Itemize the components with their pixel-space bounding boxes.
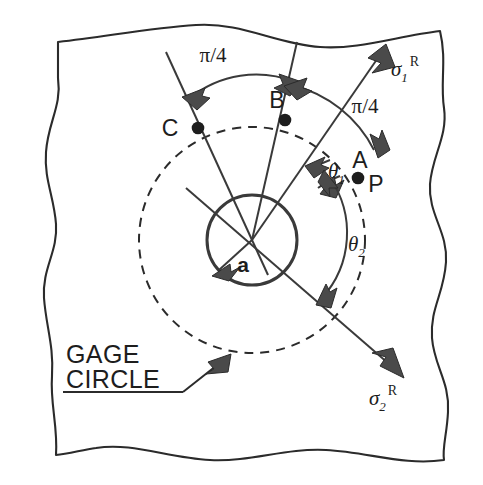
theta1-symbol: θ — [328, 159, 338, 183]
gage-caption-line2: CIRCLE — [66, 365, 160, 393]
label-point-p: P — [368, 171, 383, 197]
theta1-subscript: 1 — [338, 172, 345, 187]
gage-caption-line1: GAGE — [66, 340, 140, 368]
label-point-c: C — [162, 115, 179, 141]
gage-circle-figure: π/4 π/4 C B A P a θ1 θ2 σ1R σ2R GAGE CIR… — [0, 0, 483, 485]
theta2-subscript: 2 — [358, 245, 365, 260]
label-point-a: A — [352, 147, 368, 173]
sigma2-superscript: R — [388, 383, 398, 398]
label-hole-radius-a: a — [237, 253, 249, 276]
sigma1-subscript: 1 — [401, 70, 408, 85]
sigma1-superscript: R — [410, 54, 420, 69]
label-pi-over-4-right: π/4 — [352, 94, 379, 118]
sigma2-subscript: 2 — [379, 399, 386, 414]
label-pi-over-4-left: π/4 — [200, 43, 227, 67]
theta2-symbol: θ — [348, 232, 358, 256]
label-point-b: B — [269, 87, 284, 113]
point-b-dot — [279, 114, 292, 127]
point-p-dot — [352, 172, 365, 185]
point-c-dot — [192, 122, 205, 135]
